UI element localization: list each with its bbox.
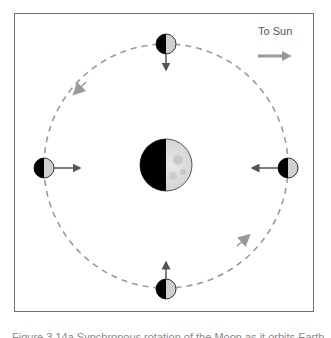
- orbit-diagram: [0, 0, 331, 338]
- moon-right-icon: [252, 158, 298, 178]
- moon-left-icon: [34, 158, 80, 178]
- earth-icon: [140, 139, 192, 191]
- sun-direction-label: To Sun: [258, 25, 292, 37]
- moon-bottom-icon: [156, 262, 176, 299]
- figure-caption: Figure 3.14a Synchronous rotation of the…: [12, 330, 331, 338]
- moon-top-icon: [156, 34, 176, 70]
- sun-direction-arrow-icon: [258, 51, 292, 61]
